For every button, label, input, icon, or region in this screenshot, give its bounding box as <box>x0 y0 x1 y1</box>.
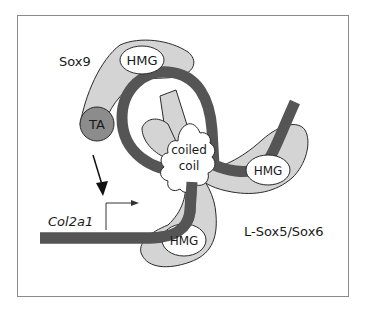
sox56-label: L-Sox5/Sox6 <box>244 224 324 239</box>
sox-trio-diagram: Sox9 HMG TA coiled coil HMG HMG L-Sox5/S… <box>0 0 365 311</box>
gene-label: Col2a1 <box>48 214 93 229</box>
sox56-hmg-right-label: HMG <box>254 164 283 178</box>
coiled-label: coiled <box>171 143 207 157</box>
sox56-hmg-bottom-label: HMG <box>170 234 199 248</box>
sox9-label: Sox9 <box>59 54 91 69</box>
sox9-hmg-label: HMG <box>126 53 157 68</box>
ta-label: TA <box>88 117 105 132</box>
coil-label: coil <box>179 159 200 173</box>
